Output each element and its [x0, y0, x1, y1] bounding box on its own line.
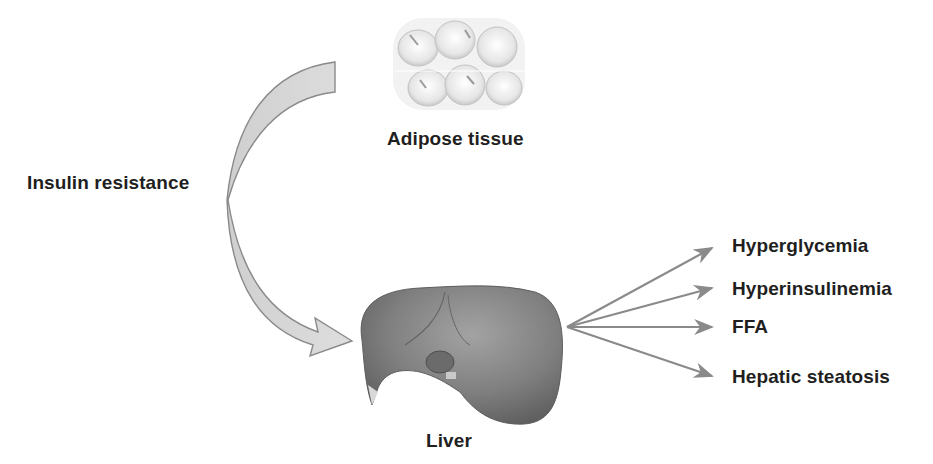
- outcome-ffa: FFA: [732, 316, 768, 338]
- adipose-tissue-icon: [393, 18, 525, 110]
- outcome-hepatic-steatosis: Hepatic steatosis: [732, 366, 890, 388]
- outcome-hyperinsulinemia: Hyperinsulinemia: [732, 278, 892, 300]
- liver-label: Liver: [426, 430, 472, 452]
- liver-icon: [361, 286, 562, 424]
- adipose-tissue-label: Adipose tissue: [387, 128, 524, 150]
- curved-arrow: [227, 62, 352, 356]
- outcome-hyperglycemia: Hyperglycemia: [732, 235, 868, 257]
- outcome-arrows: [567, 248, 712, 376]
- insulin-resistance-label: Insulin resistance: [27, 172, 189, 194]
- diagram-canvas: [0, 0, 933, 464]
